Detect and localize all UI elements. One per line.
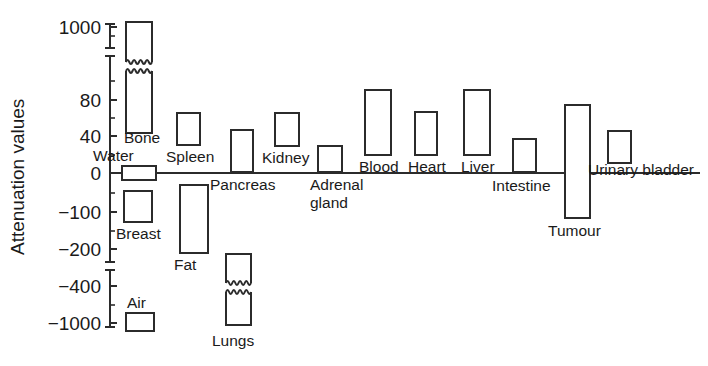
scale-break-icon <box>226 290 251 294</box>
bar-label-air: Air <box>127 294 146 311</box>
bar-rect <box>464 90 490 155</box>
bar-rect <box>513 139 536 172</box>
bar-fat <box>180 185 208 253</box>
bar-label-urinary-bladder: Urinary bladder <box>588 161 694 178</box>
y-tick-label-2: 40 <box>80 126 101 147</box>
bar-rect <box>122 166 156 180</box>
bar-rect <box>275 113 299 146</box>
attenuation-values-chart: Attenuation values 100080400−100−200−400… <box>0 0 708 366</box>
scale-break-icon <box>126 60 152 64</box>
bar-label-kidney: Kidney <box>262 149 310 166</box>
bar-lower-segment <box>226 292 251 325</box>
bar-label-spleen: Spleen <box>166 148 214 165</box>
bar-label-heart: Heart <box>408 158 447 175</box>
y-tick-label-4: −100 <box>58 202 101 223</box>
bar-upper-segment <box>126 22 152 62</box>
bar-rect <box>124 191 152 222</box>
bar-label-adrenal-gland: Adrenalgland <box>310 176 363 211</box>
bar-label-breast: Breast <box>116 225 161 242</box>
bar-label-water: Water <box>93 147 134 164</box>
bar-upper-segment <box>226 254 251 283</box>
y-tick-label-1: 80 <box>80 90 101 111</box>
bar-liver <box>464 90 490 155</box>
y-axis-label: Attenuation values <box>7 99 28 255</box>
y-tick-label-6: −400 <box>58 276 101 297</box>
bar-air <box>126 313 154 331</box>
y-axis: 100080400−100−200−400−1000 <box>48 17 117 334</box>
bar-label-tumour: Tumour <box>548 222 601 239</box>
y-tick-label-3: 0 <box>90 163 101 184</box>
chart-canvas: Attenuation values 100080400−100−200−400… <box>0 0 708 366</box>
bar-rect <box>565 105 590 218</box>
y-tick-label-7: −1000 <box>48 313 101 334</box>
bar-water <box>122 166 156 180</box>
bar-rect <box>177 113 200 145</box>
bar-label-pancreas: Pancreas <box>210 176 276 193</box>
bar-rect <box>231 130 253 172</box>
bar-lower-segment <box>126 71 152 133</box>
bar-breast <box>124 191 152 222</box>
bar-rect <box>365 90 391 155</box>
bar-pancreas <box>231 130 253 172</box>
bar-lungs <box>226 254 251 325</box>
bar-kidney <box>275 113 299 146</box>
bar-rect <box>126 313 154 331</box>
scale-break-icon <box>226 281 251 285</box>
bar-label-intestine: Intestine <box>492 177 551 194</box>
bar-heart <box>415 112 437 155</box>
bar-rect <box>415 112 437 155</box>
y-tick-label-5: −200 <box>58 239 101 260</box>
bar-adrenal-gland <box>318 146 342 172</box>
bar-blood <box>365 90 391 155</box>
bar-rect <box>180 185 208 253</box>
bar-rect <box>318 146 342 172</box>
bar-label-fat: Fat <box>174 256 197 273</box>
bar-label-lungs: Lungs <box>212 332 254 349</box>
bar-spleen <box>177 113 200 145</box>
y-tick-label-0: 1000 <box>59 17 101 38</box>
bar-label-blood: Blood <box>359 158 399 175</box>
bar-intestine <box>513 139 536 172</box>
bar-group <box>122 22 631 331</box>
bar-label-liver: Liver <box>461 158 495 175</box>
bar-urinary-bladder <box>608 131 631 163</box>
bar-bone <box>126 22 152 133</box>
scale-break-icon <box>126 69 152 73</box>
bar-tumour <box>565 105 590 218</box>
bar-label-bone: Bone <box>124 129 160 146</box>
bar-rect <box>608 131 631 163</box>
